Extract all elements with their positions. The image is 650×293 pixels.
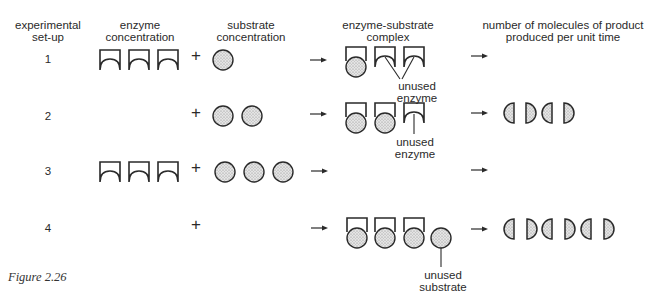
enzyme-shape bbox=[158, 50, 178, 70]
arrow-icon bbox=[311, 226, 328, 231]
product-half bbox=[526, 103, 536, 123]
arrow-icon bbox=[471, 168, 488, 173]
substrate-circle bbox=[213, 106, 233, 126]
arrow-icon bbox=[471, 227, 488, 232]
arrow-icon bbox=[310, 58, 327, 63]
product-half bbox=[604, 219, 614, 239]
enzyme-substrate-complex bbox=[346, 47, 366, 77]
product-half bbox=[504, 219, 514, 239]
enzyme-shape bbox=[100, 50, 120, 70]
enzyme-substrate-complex bbox=[375, 103, 395, 133]
substrate-circle bbox=[273, 162, 293, 182]
substrate-circle bbox=[244, 162, 264, 182]
product-half bbox=[504, 103, 514, 123]
substrate-circle bbox=[242, 106, 262, 126]
enzyme-substrate-complex bbox=[346, 103, 366, 133]
arrow-icon bbox=[471, 111, 488, 116]
enzyme-shape bbox=[129, 162, 149, 182]
unused-substrate-circle bbox=[431, 228, 451, 248]
row-4 bbox=[311, 218, 614, 267]
enzyme-substrate-complex bbox=[404, 218, 424, 248]
enzyme-substrate-complex bbox=[347, 218, 367, 248]
row-3 bbox=[100, 162, 488, 182]
product-half bbox=[527, 219, 537, 239]
arrow-icon bbox=[471, 54, 488, 59]
arrow-icon bbox=[311, 169, 328, 174]
arrow-icon bbox=[310, 112, 327, 117]
pointer-line bbox=[385, 57, 400, 79]
product-half bbox=[564, 103, 574, 123]
row-1 bbox=[100, 47, 488, 79]
enzyme-shape bbox=[100, 162, 120, 182]
substrate-circle bbox=[213, 50, 233, 70]
enzyme-shape bbox=[129, 50, 149, 70]
enzyme-shape bbox=[158, 162, 178, 182]
substrate-circle bbox=[215, 162, 235, 182]
product-half bbox=[542, 219, 552, 239]
product-half bbox=[542, 103, 552, 123]
enzyme-substrate-complex bbox=[375, 218, 395, 248]
product-half bbox=[581, 219, 591, 239]
product-half bbox=[565, 219, 575, 239]
enzyme-substrate-diagram bbox=[0, 0, 650, 293]
row-2 bbox=[213, 103, 574, 134]
